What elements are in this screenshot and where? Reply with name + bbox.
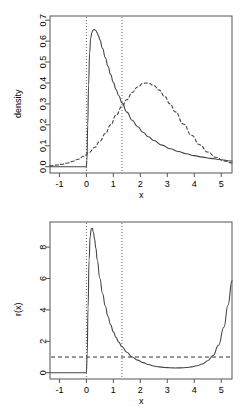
data-series-0 (50, 228, 232, 372)
plot-frame (50, 222, 232, 379)
plot-frame (50, 16, 232, 173)
x-tick-label-3: 2 (138, 179, 143, 189)
x-tick-label-4: 3 (165, 385, 170, 395)
data-series-0 (50, 30, 232, 167)
y-tick-label-6: 0.6 (38, 35, 48, 48)
x-tick-label-2: 1 (111, 385, 116, 395)
y-tick-label-4: 0.4 (38, 77, 48, 90)
y-tick-label-5: 0.5 (38, 56, 48, 69)
figure-canvas: -10123450.00.10.20.30.40.50.60.7 density… (0, 0, 245, 412)
y-tick-label-1: 0.1 (38, 140, 48, 153)
density-plot-svg: -10123450.00.10.20.30.40.50.60.7 (0, 0, 245, 206)
x-tick-label-5: 4 (192, 385, 197, 395)
y-tick-label-7: 0.7 (38, 14, 48, 27)
y-tick-label-3: 0.3 (38, 98, 48, 111)
y-tick-label-2: 0.2 (38, 119, 48, 132)
y-tick-label-4: 8 (38, 245, 48, 250)
x-tick-label-1: 0 (84, 385, 89, 395)
y-tick-label-0: 0.0 (38, 160, 48, 173)
density-panel: -10123450.00.10.20.30.40.50.60.7 density… (0, 0, 245, 206)
x-tick-label-5: 4 (192, 179, 197, 189)
y-tick-label-3: 6 (38, 276, 48, 281)
x-tick-label-1: 0 (84, 179, 89, 189)
x-tick-label-3: 2 (138, 385, 143, 395)
density-y-axis-title: density (13, 89, 23, 118)
ratio-x-axis-title: x (139, 396, 144, 406)
data-series-1 (50, 83, 232, 166)
x-tick-label-4: 3 (165, 179, 170, 189)
ratio-y-axis-title: r(x) (13, 303, 23, 317)
ratio-plot-svg: -101234502468 (0, 206, 245, 412)
x-tick-label-6: 5 (219, 179, 224, 189)
x-tick-label-2: 1 (111, 179, 116, 189)
y-tick-label-2: 4 (38, 307, 48, 312)
ratio-panel: -101234502468 r(x) x (0, 206, 245, 412)
x-tick-label-0: -1 (55, 385, 63, 395)
x-tick-label-0: -1 (55, 179, 63, 189)
y-tick-label-1: 2 (38, 339, 48, 344)
x-tick-label-6: 5 (219, 385, 224, 395)
y-tick-label-0: 0 (38, 370, 48, 375)
density-x-axis-title: x (139, 190, 144, 200)
